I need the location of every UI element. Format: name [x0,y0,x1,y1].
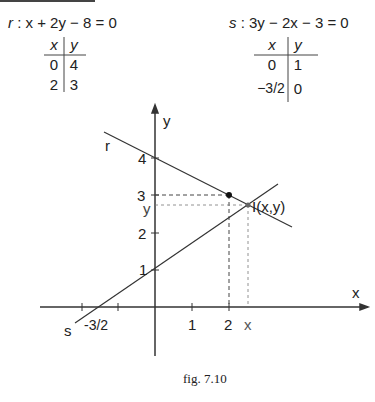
y-tick-label: 2 [138,225,146,242]
intersection-point [246,203,251,208]
intersection-label: I(x,y) [252,198,285,215]
x-axis-arrow-icon [360,304,368,310]
y-tick-label: 1 [139,261,147,278]
y-axis-arrow-icon [152,105,158,113]
point-2-3 [226,192,232,198]
x-tick-label: 2 [224,316,232,333]
line-s-label: s [64,322,72,339]
y-tick-label: y [143,200,151,217]
coordinate-graph: y x r s I(x,y) -3/2 1 2 x 1 2 3 y 4 [0,0,375,402]
x-tick-label: 1 [188,316,196,333]
x-axis-label: x [352,284,360,301]
x-tick-label: x [244,316,252,333]
y-axis-label: y [163,112,171,129]
y-tick-label: 4 [138,150,146,167]
x-tick-label: -3/2 [84,317,108,333]
figure-caption: fig. 7.10 [183,371,227,387]
line-r-label: r [105,137,110,154]
